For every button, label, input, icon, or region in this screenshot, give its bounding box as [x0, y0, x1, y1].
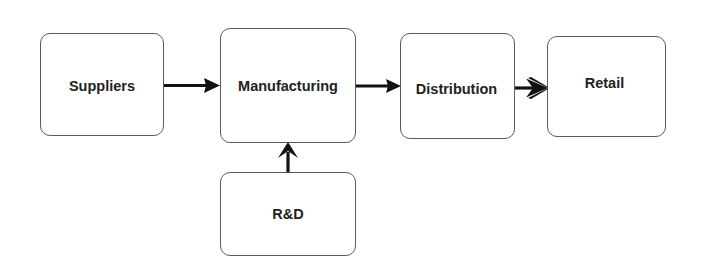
- node-label-suppliers: Suppliers: [41, 78, 163, 94]
- edge-distribution-to-retail: [511, 77, 548, 99]
- edge-manufacturing-to-distribution: [356, 79, 401, 93]
- edge-rnd-to-manufacturing: [278, 142, 298, 172]
- node-suppliers[interactable]: Suppliers: [40, 33, 164, 136]
- arrowhead-icon: [204, 78, 220, 93]
- node-retail[interactable]: Retail: [547, 36, 666, 137]
- node-label-distribution: Distribution: [399, 81, 514, 97]
- node-rnd[interactable]: R&D: [220, 172, 356, 256]
- edge-suppliers-to-manufacturing: [164, 78, 220, 93]
- node-distribution[interactable]: Distribution: [400, 33, 515, 139]
- node-label-manufacturing: Manufacturing: [221, 78, 355, 94]
- node-label-retail: Retail: [544, 75, 665, 91]
- diagram-canvas: Suppliers Manufacturing Distribution Ret…: [0, 0, 702, 273]
- node-manufacturing[interactable]: Manufacturing: [220, 28, 356, 143]
- arrowhead-icon: [278, 142, 298, 158]
- node-label-rnd: R&D: [221, 206, 355, 222]
